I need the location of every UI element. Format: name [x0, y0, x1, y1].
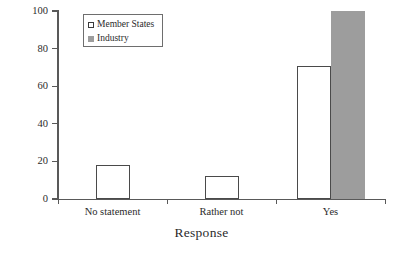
- y-tick-label: 60: [20, 81, 48, 92]
- x-axis-title: Response: [0, 225, 403, 241]
- x-tick-mark: [385, 199, 386, 204]
- legend-label: Industry: [97, 34, 129, 44]
- bar-chart-figure: 020406080100 No statementRather notYes F…: [0, 0, 403, 253]
- bar: [331, 11, 365, 199]
- legend-item-member-states: Member States: [88, 18, 158, 31]
- x-tick-label: Rather not: [167, 207, 276, 218]
- bar: [96, 165, 130, 199]
- open-square-marker-icon: [88, 22, 94, 28]
- x-tick-mark: [167, 199, 168, 204]
- y-tick-label: 40: [20, 119, 48, 130]
- bar: [297, 66, 331, 199]
- bar: [205, 176, 239, 199]
- legend-label: Member States: [97, 20, 154, 30]
- y-tick-label: 100: [20, 6, 48, 17]
- x-tick-label: Yes: [276, 207, 385, 218]
- chart-legend: Member States Industry: [83, 14, 163, 47]
- y-tick-label: 20: [20, 156, 48, 167]
- filled-square-marker-icon: [88, 36, 94, 42]
- y-tick-label: 80: [20, 44, 48, 55]
- x-tick-mark: [58, 199, 59, 204]
- x-tick-mark: [276, 199, 277, 204]
- y-tick-label: 0: [20, 194, 48, 205]
- x-tick-label: No statement: [58, 207, 167, 218]
- legend-item-industry: Industry: [88, 32, 158, 45]
